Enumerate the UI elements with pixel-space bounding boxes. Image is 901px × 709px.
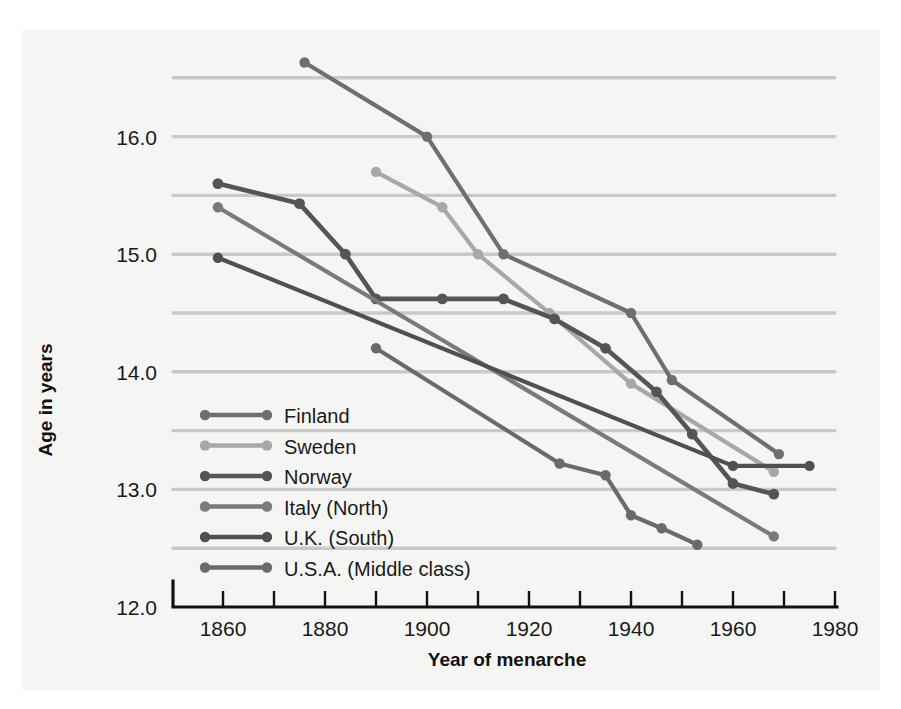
legend-label-2: Norway: [284, 466, 352, 488]
y-tick-label-12: 12.0: [116, 596, 157, 619]
legend-marker-end-0: [262, 410, 272, 420]
datapoint-5-1: [554, 458, 564, 468]
x-tick-label-1940: 1940: [608, 617, 655, 640]
legend-marker-end-3: [262, 501, 272, 511]
x-tick-label-1880: 1880: [302, 617, 349, 640]
legend-marker-start-1: [200, 440, 210, 450]
datapoint-4-2: [804, 461, 814, 471]
x-axis-title: Year of menarche: [428, 649, 586, 670]
datapoint-0-4: [667, 375, 677, 385]
legend-label-3: Italy (North): [284, 497, 388, 519]
datapoint-1-4: [626, 378, 636, 388]
datapoint-5-5: [692, 540, 702, 550]
figure-page: 186018801900192019401960198012.013.014.0…: [0, 0, 901, 709]
y-axis-title: Age in years: [35, 344, 56, 457]
x-tick-label-1900: 1900: [404, 617, 451, 640]
datapoint-2-0: [213, 178, 224, 189]
datapoint-0-5: [774, 449, 784, 459]
x-tick-label-1980: 1980: [812, 617, 859, 640]
datapoint-4-0: [213, 253, 223, 263]
series-line-5: [376, 348, 697, 544]
datapoint-0-0: [299, 57, 309, 67]
datapoint-4-1: [728, 461, 738, 471]
legend-marker-start-0: [200, 410, 210, 420]
legend-item-norway[interactable]: Norway: [200, 466, 352, 488]
series-line-1: [376, 172, 774, 472]
legend-label-0: Finland: [284, 405, 350, 427]
axes: [173, 581, 837, 607]
datapoint-3-0: [213, 202, 223, 212]
datapoint-2-10: [728, 478, 739, 489]
datapoint-5-2: [600, 470, 610, 480]
datapoint-1-0: [371, 167, 381, 177]
legend-item-finland[interactable]: Finland: [200, 405, 350, 427]
axis-lines: [173, 581, 837, 607]
legend-marker-start-4: [200, 532, 210, 542]
datapoint-1-1: [437, 202, 447, 212]
y-tick-label-13: 13.0: [116, 478, 157, 501]
y-tick-label-16: 16.0: [116, 126, 157, 149]
datapoint-2-6: [549, 314, 560, 325]
datapoint-5-3: [626, 510, 636, 520]
datapoint-2-11: [768, 489, 779, 500]
tick-labels: 186018801900192019401960198012.013.014.0…: [116, 126, 858, 640]
y-tick-label-14: 14.0: [116, 361, 157, 384]
legend-marker-start-3: [200, 501, 210, 511]
legend-item-u-s-a-middle-class[interactable]: U.S.A. (Middle class): [200, 558, 471, 580]
datapoint-2-7: [600, 343, 611, 354]
gridlines: [173, 78, 835, 548]
y-tick-label-15: 15.0: [116, 243, 157, 266]
legend-label-4: U.K. (South): [284, 527, 394, 549]
legend-marker-end-1: [262, 440, 272, 450]
datapoint-0-2: [498, 249, 508, 259]
datapoint-1-2: [473, 249, 483, 259]
x-tick-label-1860: 1860: [200, 617, 247, 640]
datapoint-2-1: [294, 198, 305, 209]
legend-marker-end-2: [262, 471, 272, 481]
legend-item-italy-north[interactable]: Italy (North): [200, 497, 389, 519]
datapoint-1-5: [769, 467, 779, 477]
datapoint-5-0: [371, 343, 381, 353]
legend-marker-end-4: [262, 532, 272, 542]
datapoint-2-4: [437, 294, 448, 305]
datapoint-2-8: [651, 386, 662, 397]
datapoint-5-4: [656, 523, 666, 533]
legend-marker-start-5: [200, 562, 210, 572]
series-line-0: [305, 63, 779, 455]
legend-label-5: U.S.A. (Middle class): [284, 558, 471, 580]
x-tick-label-1960: 1960: [710, 617, 757, 640]
legend-item-sweden[interactable]: Sweden: [200, 436, 356, 458]
legend-marker-start-2: [200, 471, 210, 481]
datapoint-3-1: [769, 531, 779, 541]
menarche-age-line-chart: 186018801900192019401960198012.013.014.0…: [0, 0, 901, 709]
chart-figure: 186018801900192019401960198012.013.014.0…: [0, 0, 901, 709]
series-u-s-a-middle-class: [371, 343, 703, 550]
legend-marker-end-5: [262, 562, 272, 572]
legend-item-u-k-south[interactable]: U.K. (South): [200, 527, 394, 549]
datapoint-2-9: [687, 429, 698, 440]
datapoint-2-5: [498, 294, 509, 305]
datapoint-0-3: [626, 308, 636, 318]
datapoint-0-1: [422, 131, 432, 141]
datapoint-2-2: [340, 249, 351, 260]
x-tick-label-1920: 1920: [506, 617, 553, 640]
legend-label-1: Sweden: [284, 436, 356, 458]
